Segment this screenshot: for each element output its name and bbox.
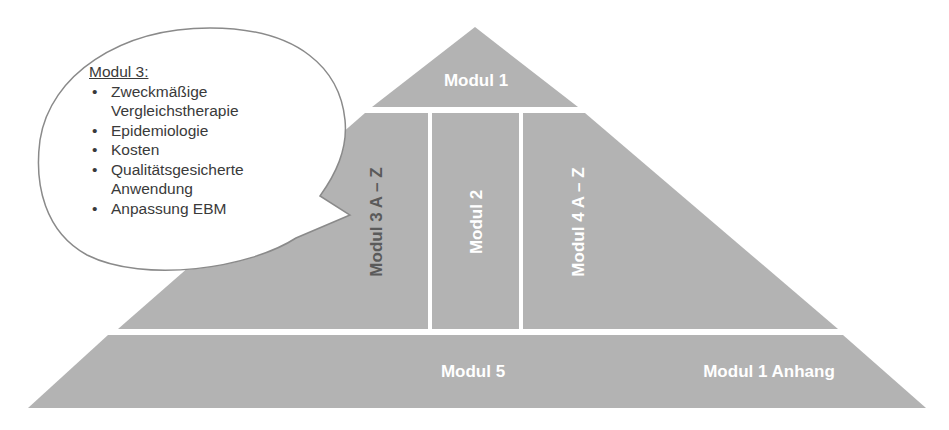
callout-item: Kosten [89,140,329,160]
label-modul-4: Modul 4 A – Z [569,167,588,276]
callout-item: Anpassung EBM [89,199,329,219]
pyramid-top-block [372,27,578,107]
label-modul-2: Modul 2 [467,190,486,254]
label-modul-1: Modul 1 [444,71,508,90]
callout-content: Modul 3: Zweckmäßige Vergleichstherapie … [89,62,329,218]
callout-list: Zweckmäßige Vergleichstherapie Epidemiol… [89,82,329,219]
callout-item: Zweckmäßige Vergleichstherapie [89,82,301,121]
callout-title: Modul 3: [89,62,329,82]
callout-item: Qualitätsgesicherte Anwendung [89,160,301,199]
callout-item: Epidemiologie [89,121,329,141]
label-modul-5: Modul 5 [441,362,505,381]
label-modul-1-anhang: Modul 1 Anhang [703,362,835,381]
label-modul-3: Modul 3 A – Z [367,167,386,276]
